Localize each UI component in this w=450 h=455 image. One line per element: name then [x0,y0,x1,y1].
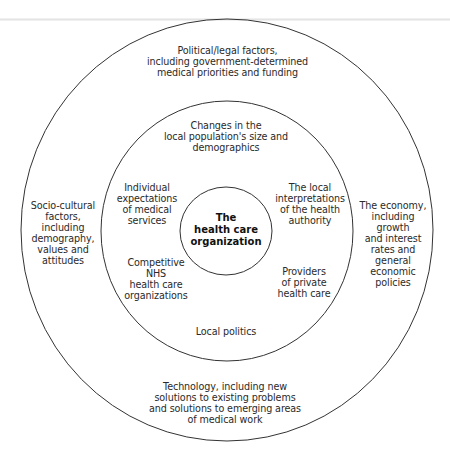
label-technology: Technology, including new solutions to e… [125,381,325,425]
label-competitive-nhs: Competitive NHS health care organization… [117,257,195,301]
label-health-care-organization: The health care organization [181,212,271,248]
label-local-politics: Local politics [170,326,282,337]
label-economy: The economy, including growth and intere… [357,200,429,288]
label-population-changes: Changes in the local population's size a… [140,120,312,153]
label-political-legal: Political/legal factors, including gover… [130,45,325,78]
label-private-providers: Providers of private health care [268,266,340,299]
label-individual-expectations: Individual expectations of medical servi… [112,182,182,226]
label-socio-cultural: Socio-cultural factors, including demogr… [27,200,99,266]
label-health-authority: The local interpretations of the health … [270,182,350,226]
